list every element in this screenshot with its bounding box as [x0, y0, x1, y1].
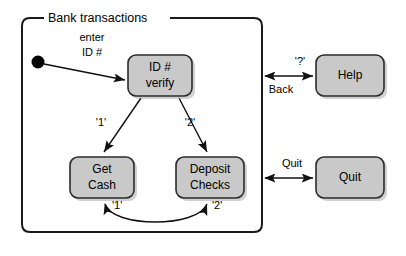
help-transition-group: '?' Back: [265, 55, 313, 95]
verify-to-get-cash-group: '1': [96, 98, 141, 152]
state-get-cash-label-line2: Cash: [88, 178, 116, 192]
container-title: Bank transactions: [48, 11, 147, 25]
enter-id-label-line1: enter: [79, 31, 104, 43]
help-transition-label-top: '?': [295, 55, 305, 67]
initial-transition-group: enter ID #: [32, 31, 126, 80]
verify-to-deposit-label: '2': [185, 116, 195, 128]
state-help[interactable]: Help: [316, 55, 387, 99]
state-help-label: Help: [338, 68, 363, 82]
state-deposit-checks-label-line2: Checks: [190, 178, 230, 192]
state-id-verify-label-line2: verify: [146, 76, 175, 90]
state-id-verify-label-line1: ID #: [149, 60, 171, 74]
state-quit[interactable]: Quit: [316, 157, 387, 201]
statechart-diagram: Bank transactions enter ID # '1' '2' '1'…: [0, 0, 406, 256]
state-get-cash[interactable]: Get Cash: [70, 157, 137, 201]
verify-to-get-cash-arrow[interactable]: [104, 98, 141, 152]
state-quit-label: Quit: [339, 170, 362, 184]
initial-state-dot[interactable]: [32, 56, 45, 69]
enter-id-label-line2: ID #: [82, 46, 103, 58]
quit-transition-group: Quit: [265, 157, 313, 178]
state-deposit-checks[interactable]: Deposit Checks: [176, 157, 247, 201]
diagram-canvas: Bank transactions enter ID # '1' '2' '1'…: [0, 0, 406, 256]
bottom-loop-group: '1' '2': [105, 199, 222, 222]
enter-id-transition-arrow[interactable]: [44, 64, 125, 80]
quit-transition-label-top: Quit: [282, 157, 302, 169]
state-deposit-checks-label-line1: Deposit: [190, 162, 231, 176]
state-id-verify[interactable]: ID # verify: [128, 55, 195, 99]
verify-to-deposit-group: '2': [179, 98, 207, 152]
verify-to-get-cash-label: '1': [96, 116, 106, 128]
help-transition-label-bottom: Back: [269, 83, 294, 95]
state-get-cash-label-line1: Get: [92, 162, 112, 176]
